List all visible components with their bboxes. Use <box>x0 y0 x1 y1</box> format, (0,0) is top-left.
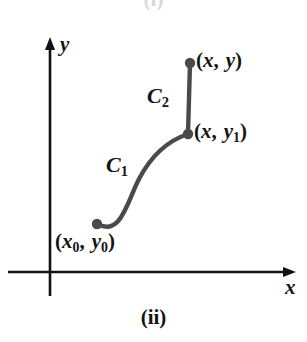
end-point-dot <box>185 58 195 68</box>
middle-point-label: (x, y1) <box>194 121 247 145</box>
subscript-0: 0 <box>101 240 108 255</box>
middle-point-dot <box>183 129 193 139</box>
figure-caption: (ii) <box>0 307 307 328</box>
paren-close: ) <box>108 229 115 253</box>
curve-c2-label: C2 <box>147 85 169 110</box>
figure-graphic <box>0 0 307 342</box>
x-axis-label: x <box>285 277 296 298</box>
paren-close: ) <box>240 119 247 143</box>
subscript-1: 1 <box>121 163 128 179</box>
curve-c1-path <box>97 134 188 227</box>
end-point-label: (x, y) <box>196 50 242 71</box>
figure-container: (i) y x (x, y) (x, y1) (x0, y0) C1 C2 (i… <box>0 0 307 342</box>
variable-x: x <box>201 119 212 143</box>
paren-open: ( <box>196 48 203 72</box>
curve-letter: C <box>106 152 121 177</box>
curve-c1-label: C1 <box>106 154 128 179</box>
variable-y: y <box>224 119 233 143</box>
comma: , <box>79 229 84 253</box>
curve-c2-path <box>188 63 190 134</box>
y-axis-arrowhead <box>45 37 55 50</box>
curve-letter: C <box>147 83 162 108</box>
variable-y: y <box>226 48 235 72</box>
comma: , <box>212 119 217 143</box>
start-point-dot <box>92 219 102 229</box>
paren-open: ( <box>55 229 62 253</box>
subscript-1: 1 <box>233 130 240 145</box>
paren-open: ( <box>194 119 201 143</box>
start-point-label: (x0, y0) <box>55 231 115 255</box>
variable-x: x <box>203 48 214 72</box>
variable-y: y <box>92 229 101 253</box>
comma: , <box>214 48 219 72</box>
variable-x: x <box>62 229 73 253</box>
subscript-2: 2 <box>162 94 169 110</box>
paren-close: ) <box>235 48 242 72</box>
y-axis-label: y <box>60 34 69 55</box>
